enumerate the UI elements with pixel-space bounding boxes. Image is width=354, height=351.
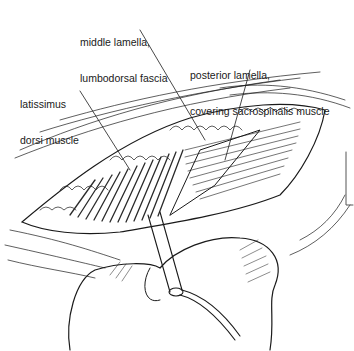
label-line: posterior lamella, [190, 69, 329, 81]
label-line: middle lamella, [80, 36, 168, 48]
latissimus-fibers [70, 150, 183, 222]
label-line: covering sacrospinalis muscle [190, 105, 329, 117]
hand-outline [69, 238, 278, 350]
scale-bar [346, 152, 353, 205]
illustration-canvas: middle lamella, lumbodorsal fascia poste… [0, 0, 354, 351]
label-line: dorsi muscle [20, 134, 79, 146]
label-middle-lamella: middle lamella, lumbodorsal fascia [80, 12, 168, 108]
label-line: latissimus [20, 98, 79, 110]
label-line: lumbodorsal fascia [80, 72, 168, 84]
label-latissimus-dorsi: latissimus dorsi muscle [20, 74, 79, 170]
label-posterior-lamella: posterior lamella, covering sacrospinali… [190, 45, 329, 141]
hand-finger [145, 268, 160, 301]
suction-instrument [148, 212, 240, 340]
